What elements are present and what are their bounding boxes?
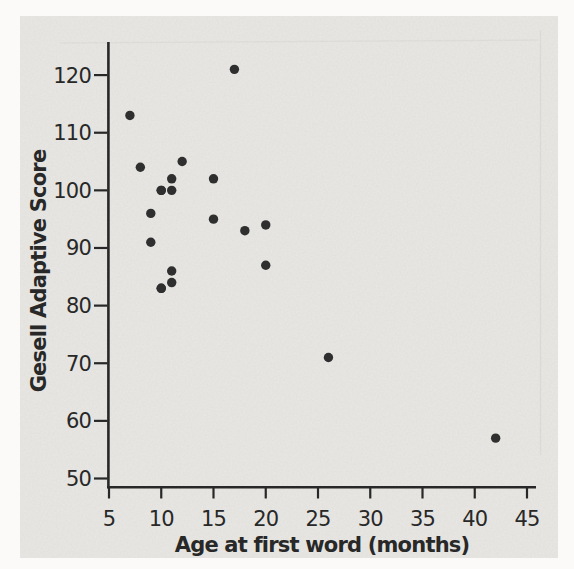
data-point [491,433,500,442]
data-point [146,209,155,218]
data-point [125,111,134,120]
data-point [167,278,176,287]
x-tick-label: 45 [514,507,539,531]
data-point [261,220,270,229]
data-point [136,163,145,172]
data-point [240,226,249,235]
x-tick-label: 30 [358,507,383,531]
y-tick-label: 70 [66,352,91,376]
data-point [324,353,333,362]
data-point [167,174,176,183]
x-tick-label: 15 [201,507,226,531]
y-tick-label: 110 [53,121,91,145]
x-tick-label: 10 [149,507,174,531]
y-tick-label: 120 [53,64,91,88]
y-axis-title: Gesell Adaptive Score [27,149,51,392]
data-point [177,157,186,166]
data-point [230,65,239,74]
y-tick-label: 50 [66,467,91,491]
y-tick-label: 100 [53,179,91,203]
data-point [167,266,176,275]
paper-texture [20,16,558,558]
scanned-page: 506070809010011012051015202530354045 Age… [0,0,574,569]
x-tick-label: 35 [410,507,435,531]
data-point [157,186,166,195]
data-point [209,214,218,223]
data-point [261,261,270,270]
x-tick-label: 40 [462,507,487,531]
y-tick-label: 60 [66,409,91,433]
scatter-plot: 506070809010011012051015202530354045 Age… [0,0,574,569]
data-point [157,284,166,293]
x-axis-title: Age at first word (months) [175,533,470,557]
data-point [209,174,218,183]
y-tick-label: 80 [66,294,91,318]
x-tick-label: 5 [103,507,116,531]
x-tick-label: 25 [305,507,330,531]
y-tick-label: 90 [66,236,91,260]
x-tick-label: 20 [253,507,278,531]
data-point [146,238,155,247]
data-point [167,186,176,195]
